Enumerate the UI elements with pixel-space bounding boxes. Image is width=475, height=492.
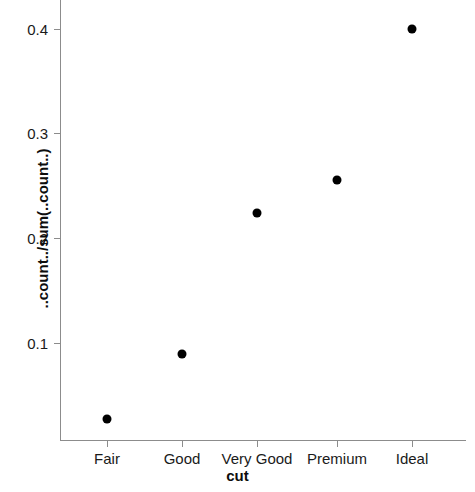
data-point: [178, 350, 187, 359]
y-tick-mark: [54, 343, 60, 344]
y-tick-mark: [54, 29, 60, 30]
x-tick-mark: [337, 441, 338, 447]
y-tick-label: 0.4: [27, 21, 48, 38]
x-tick-label: Premium: [307, 450, 367, 467]
x-tick-label: Good: [164, 450, 201, 467]
data-point: [253, 209, 262, 218]
y-tick-mark: [54, 238, 60, 239]
x-tick-mark: [182, 441, 183, 447]
x-tick-mark: [257, 441, 258, 447]
y-tick-mark: [54, 133, 60, 134]
x-axis-title: cut: [0, 467, 475, 484]
data-point: [408, 25, 417, 34]
x-tick-label: Ideal: [396, 450, 429, 467]
data-point: [103, 415, 112, 424]
x-tick-mark: [107, 441, 108, 447]
x-tick-mark: [412, 441, 413, 447]
y-axis-line: [60, 0, 61, 441]
x-tick-label: Very Good: [222, 450, 293, 467]
scatter-plot-figure: 0.40.30.20.1 FairGoodVery GoodPremiumIde…: [0, 0, 475, 492]
x-tick-label: Fair: [94, 450, 120, 467]
y-axis-title: ..count../sum(..count..): [34, 99, 51, 359]
data-point: [333, 176, 342, 185]
x-axis-line: [60, 440, 466, 441]
